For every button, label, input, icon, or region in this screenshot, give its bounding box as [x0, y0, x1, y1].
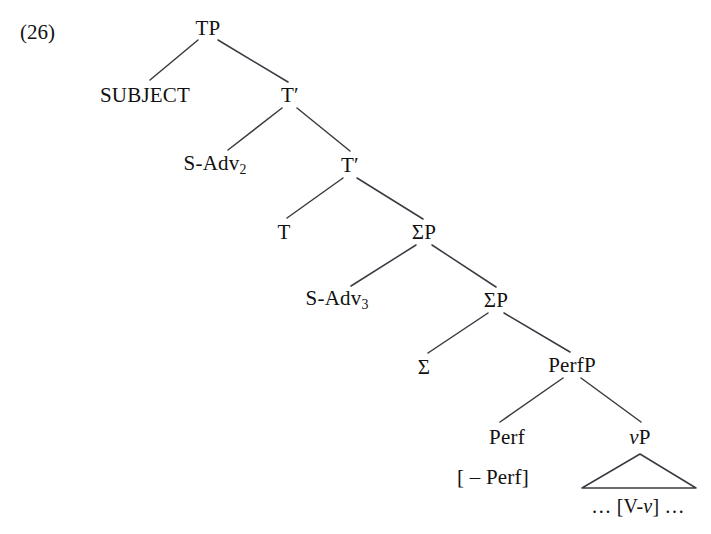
vp-content-prefix: … [V- — [591, 495, 643, 517]
node-perf: Perf — [489, 427, 525, 448]
node-tp-label: TP — [196, 16, 221, 40]
vp-content-italic-v: v — [643, 495, 652, 517]
node-sigma-p-1-label: ΣP — [412, 220, 436, 244]
node-t-bar-2: T′ — [341, 155, 359, 176]
node-little-v-p-suffix: P — [639, 425, 651, 449]
node-perf-label: Perf — [489, 425, 525, 449]
node-s-adv-2-subscript: 2 — [239, 162, 246, 177]
vp-content-suffix: ] … — [652, 495, 684, 517]
node-t-bar-1: T′ — [281, 85, 299, 106]
perf-feature-bracket: [ – Perf] — [457, 467, 529, 488]
node-t-bar-2-label: T′ — [341, 153, 359, 177]
figure-example-26: (26) TP SUBJECT T′ S-Adv2 T′ T ΣP S-Adv3… — [0, 0, 711, 534]
branch-sigmap1-to-sigmap2 — [432, 245, 496, 287]
branch-tbar2-to-t — [287, 178, 343, 218]
node-perf-p: PerfP — [548, 355, 596, 376]
node-sigma-p-1: ΣP — [412, 222, 436, 243]
node-s-adv-2: S-Adv2 — [184, 153, 247, 177]
node-sigma-p-2: ΣP — [484, 290, 508, 311]
branch-tp-to-tbar1 — [218, 40, 288, 82]
branch-sigmap2-to-perfp — [504, 313, 570, 352]
branch-tbar1-to-sadv2 — [228, 108, 282, 150]
node-little-v-p: vP — [629, 427, 650, 448]
vp-triangle-content: … [V-v] … — [591, 496, 684, 516]
node-s-adv-3: S-Adv3 — [306, 288, 369, 312]
branch-sigmap1-to-sadv3 — [351, 245, 416, 286]
branch-tbar2-to-sigmap1 — [357, 178, 423, 219]
node-s-adv-2-label: S-Adv — [184, 151, 240, 175]
vp-triangle — [582, 454, 696, 488]
tree-branches — [0, 0, 711, 534]
branch-perfp-to-perf — [500, 378, 563, 422]
node-sigma-label: Σ — [418, 355, 430, 379]
perf-feature-label: [ – Perf] — [457, 465, 529, 489]
node-subject: SUBJECT — [100, 85, 190, 106]
node-t-label: T — [277, 220, 290, 244]
branch-tp-to-subject — [150, 40, 198, 80]
node-tp: TP — [196, 18, 221, 39]
branch-tbar1-to-tbar2 — [297, 108, 350, 151]
node-t-bar-1-label: T′ — [281, 83, 299, 107]
node-sigma: Σ — [418, 357, 430, 378]
node-little-v-italic: v — [629, 425, 639, 449]
branch-sigmap2-to-sigma — [428, 313, 488, 353]
node-s-adv-3-subscript: 3 — [361, 297, 368, 312]
node-t: T — [277, 222, 290, 243]
branch-perfp-to-vp — [581, 378, 641, 422]
node-sigma-p-2-label: ΣP — [484, 288, 508, 312]
node-s-adv-3-label: S-Adv — [306, 286, 362, 310]
example-number: (26) — [20, 22, 55, 43]
node-perf-p-label: PerfP — [548, 353, 596, 377]
node-subject-label: SUBJECT — [100, 83, 190, 107]
